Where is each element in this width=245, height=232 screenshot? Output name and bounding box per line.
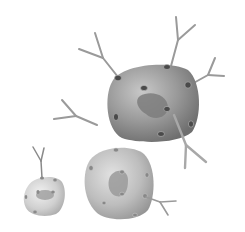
antibody-top: [171, 17, 195, 66]
antibody-top-left: [79, 33, 118, 77]
medium-cell: [85, 148, 154, 220]
small-cell: [24, 176, 65, 216]
free-antibody: [54, 100, 97, 125]
cell-antibody-illustration: [0, 0, 245, 232]
antibody-small-cell: [33, 147, 44, 178]
large-cell: [107, 65, 199, 142]
